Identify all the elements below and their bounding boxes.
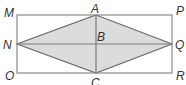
label-M: M [4,6,14,20]
label-C: C [91,76,100,85]
label-Q: Q [175,38,184,52]
label-A: A [90,2,99,16]
label-B: B [97,30,105,44]
label-O: O [5,69,14,83]
label-R: R [176,69,185,83]
label-N: N [3,38,12,52]
geometry-diagram: M P O R A B C N Q [0,0,186,85]
label-P: P [176,4,184,18]
